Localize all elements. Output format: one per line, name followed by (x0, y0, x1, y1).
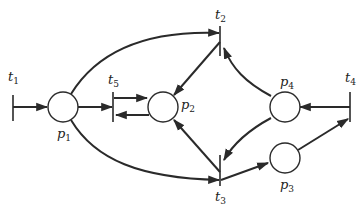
arc-p4-t2 (224, 48, 271, 96)
petri-net-diagram: t1 p1 t5 p2 t2 p4 t4 t3 p3 (0, 0, 363, 211)
label-p4: p4 (280, 74, 294, 91)
arc-p4-t3 (224, 118, 271, 160)
place-p2[interactable] (148, 92, 178, 122)
place-p4[interactable] (270, 92, 300, 122)
arc-p1-t3 (71, 120, 219, 180)
label-p3: p3 (280, 177, 294, 194)
arc-p1-t2 (71, 33, 219, 94)
label-t2: t2 (215, 7, 226, 24)
label-p2: p2 (181, 97, 195, 114)
arc-t3-p3 (221, 163, 268, 180)
label-t4: t4 (345, 70, 356, 87)
arc-p3-t4 (298, 119, 348, 150)
label-p1: p1 (57, 126, 71, 143)
label-t1: t1 (8, 69, 19, 86)
place-p3[interactable] (270, 143, 300, 173)
places (48, 92, 300, 173)
arc-t2-p2 (174, 42, 220, 95)
label-t5: t5 (108, 72, 119, 89)
place-p1[interactable] (48, 92, 78, 122)
arc-t3-p2 (174, 120, 220, 172)
label-t3: t3 (215, 189, 226, 206)
